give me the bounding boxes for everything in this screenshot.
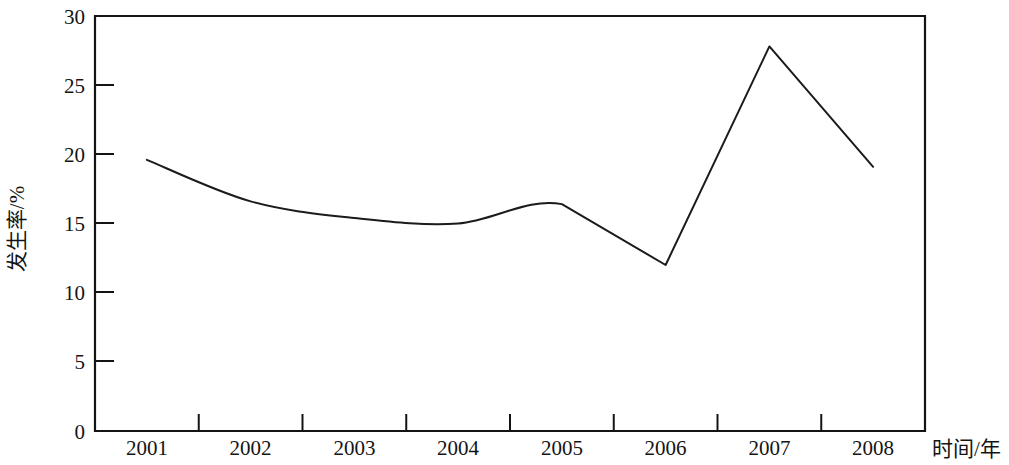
x-tick-label-2008: 2008 bbox=[852, 436, 894, 460]
x-tick-label-2005: 2005 bbox=[541, 436, 583, 460]
y-tick-label-5: 5 bbox=[75, 350, 86, 374]
y-axis-title: 发生率/% bbox=[5, 186, 29, 272]
y-axis-tick-labels: 30 25 20 15 10 5 0 bbox=[64, 5, 85, 444]
y-tick-label-30: 30 bbox=[64, 5, 85, 29]
x-tick-label-2004: 2004 bbox=[437, 436, 480, 460]
y-tick-label-10: 10 bbox=[64, 281, 85, 305]
x-tick-label-2002: 2002 bbox=[230, 436, 272, 460]
x-tick-label-2001: 2001 bbox=[126, 436, 168, 460]
x-tick-label-2006: 2006 bbox=[645, 436, 687, 460]
line-chart-figure: 30 25 20 15 10 5 0 2001 2002 2003 2004 2… bbox=[0, 0, 1009, 465]
y-tick-label-0: 0 bbox=[75, 420, 86, 444]
x-axis-tick-labels: 2001 2002 2003 2004 2005 2006 2007 2008 bbox=[126, 436, 894, 460]
y-tick-label-25: 25 bbox=[64, 74, 85, 98]
y-tick-label-15: 15 bbox=[64, 212, 85, 236]
x-tick-label-2003: 2003 bbox=[333, 436, 375, 460]
x-axis-title: 时间/年 bbox=[932, 437, 1001, 461]
plot-area-background bbox=[95, 16, 925, 431]
chart-canvas: 30 25 20 15 10 5 0 2001 2002 2003 2004 2… bbox=[0, 0, 1009, 465]
y-tick-label-20: 20 bbox=[64, 143, 85, 167]
x-tick-label-2007: 2007 bbox=[748, 436, 790, 460]
